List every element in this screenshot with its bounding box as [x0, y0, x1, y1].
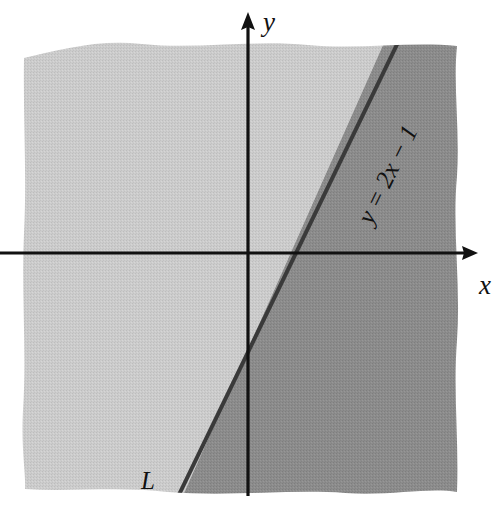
line-name-label-L: L — [140, 467, 155, 494]
math-figure: y x L y = 2x − 1 — [0, 0, 503, 511]
x-axis-arrowhead — [462, 246, 478, 260]
x-axis-label: x — [478, 270, 491, 300]
figure-canvas: y x L y = 2x − 1 — [0, 0, 503, 511]
y-axis-label: y — [260, 7, 275, 37]
